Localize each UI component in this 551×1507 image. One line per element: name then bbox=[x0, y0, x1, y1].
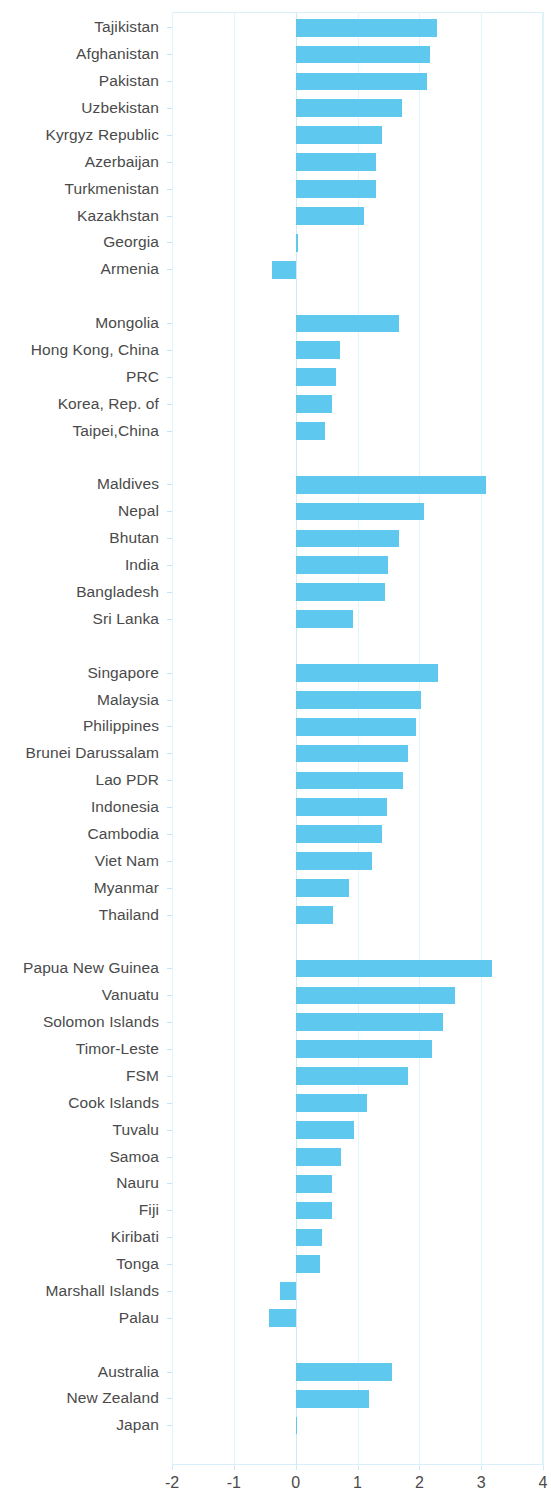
bar-row[interactable]: Thailand bbox=[172, 901, 543, 928]
bar[interactable] bbox=[296, 987, 455, 1005]
bar[interactable] bbox=[296, 126, 382, 144]
bar[interactable] bbox=[296, 879, 350, 897]
bar[interactable] bbox=[296, 234, 298, 252]
bar[interactable] bbox=[296, 1255, 320, 1273]
bar[interactable] bbox=[296, 1094, 368, 1112]
bar-row[interactable]: Palau bbox=[172, 1304, 543, 1331]
bar[interactable] bbox=[296, 207, 364, 225]
bar-row[interactable]: Cook Islands bbox=[172, 1089, 543, 1116]
bar[interactable] bbox=[296, 99, 402, 117]
bar[interactable] bbox=[296, 46, 430, 64]
bar[interactable] bbox=[296, 422, 325, 440]
bar-row[interactable]: Taipei,China bbox=[172, 417, 543, 444]
bar[interactable] bbox=[296, 1229, 322, 1247]
bar-row[interactable]: Cambodia bbox=[172, 820, 543, 847]
bar-row[interactable]: Kiribati bbox=[172, 1224, 543, 1251]
bar-row[interactable]: Indonesia bbox=[172, 794, 543, 821]
bar-row[interactable]: Georgia bbox=[172, 229, 543, 256]
bar-row[interactable]: Fiji bbox=[172, 1197, 543, 1224]
bar-row[interactable]: Turkmenistan bbox=[172, 175, 543, 202]
bar[interactable] bbox=[296, 180, 376, 198]
bar-row[interactable]: Solomon Islands bbox=[172, 1009, 543, 1036]
bar-row[interactable]: Sri Lanka bbox=[172, 605, 543, 632]
bar[interactable] bbox=[296, 1148, 342, 1166]
bar[interactable] bbox=[296, 1013, 443, 1031]
bar[interactable] bbox=[296, 1363, 392, 1381]
bar-row[interactable]: Singapore bbox=[172, 659, 543, 686]
bar[interactable] bbox=[296, 718, 416, 736]
bar[interactable] bbox=[296, 19, 437, 37]
bar[interactable] bbox=[296, 960, 493, 978]
bar-row[interactable]: Viet Nam bbox=[172, 847, 543, 874]
bar-row[interactable]: Azerbaijan bbox=[172, 148, 543, 175]
bar-row[interactable]: Myanmar bbox=[172, 874, 543, 901]
bar[interactable] bbox=[296, 503, 424, 521]
bar[interactable] bbox=[296, 825, 383, 843]
bar[interactable] bbox=[296, 610, 353, 628]
bar[interactable] bbox=[296, 745, 408, 763]
bar[interactable] bbox=[280, 1282, 296, 1300]
bar[interactable] bbox=[296, 1202, 332, 1220]
bar[interactable] bbox=[296, 341, 340, 359]
bar-row[interactable]: Papua New Guinea bbox=[172, 955, 543, 982]
bar-row[interactable]: Korea, Rep. of bbox=[172, 390, 543, 417]
bar-row[interactable]: Tajikistan bbox=[172, 14, 543, 41]
bar-row[interactable]: Tuvalu bbox=[172, 1116, 543, 1143]
bar-row[interactable]: Malaysia bbox=[172, 686, 543, 713]
bar-row[interactable]: PRC bbox=[172, 363, 543, 390]
bar[interactable] bbox=[296, 906, 334, 924]
bar[interactable] bbox=[296, 691, 422, 709]
y-axis-label: Cook Islands bbox=[68, 1094, 159, 1112]
bar-row[interactable]: Uzbekistan bbox=[172, 95, 543, 122]
bar[interactable] bbox=[296, 1121, 354, 1139]
bar[interactable] bbox=[296, 664, 438, 682]
bar-row[interactable]: FSM bbox=[172, 1062, 543, 1089]
bar-row[interactable]: Philippines bbox=[172, 713, 543, 740]
bar-row[interactable]: Marshall Islands bbox=[172, 1277, 543, 1304]
bar[interactable] bbox=[296, 530, 399, 548]
bar-row[interactable]: Nepal bbox=[172, 498, 543, 525]
bar[interactable] bbox=[296, 772, 403, 790]
bar[interactable] bbox=[296, 1067, 408, 1085]
y-axis-label: Solomon Islands bbox=[43, 1013, 159, 1031]
bar-row[interactable]: Maldives bbox=[172, 471, 543, 498]
bar[interactable] bbox=[296, 73, 427, 91]
bar[interactable] bbox=[296, 395, 332, 413]
bar[interactable] bbox=[296, 153, 376, 171]
bar-row[interactable]: New Zealand bbox=[172, 1385, 543, 1412]
bar[interactable] bbox=[272, 261, 296, 279]
bar-row[interactable]: India bbox=[172, 552, 543, 579]
bar-row[interactable]: Vanuatu bbox=[172, 982, 543, 1009]
bar-row[interactable]: Nauru bbox=[172, 1170, 543, 1197]
bar-row[interactable]: Samoa bbox=[172, 1143, 543, 1170]
bar[interactable] bbox=[296, 556, 389, 574]
bar-row[interactable]: Australia bbox=[172, 1358, 543, 1385]
bar[interactable] bbox=[296, 315, 399, 333]
bar-row[interactable]: Japan bbox=[172, 1412, 543, 1439]
bar-row[interactable]: Afghanistan bbox=[172, 41, 543, 68]
y-tick-mark bbox=[167, 592, 172, 593]
bar[interactable] bbox=[269, 1309, 296, 1327]
bar-row[interactable]: Timor-Leste bbox=[172, 1036, 543, 1063]
bar-row[interactable]: Armenia bbox=[172, 256, 543, 283]
bar-row[interactable]: Bangladesh bbox=[172, 579, 543, 606]
bar-row[interactable]: Lao PDR bbox=[172, 767, 543, 794]
bar[interactable] bbox=[296, 798, 388, 816]
bar[interactable] bbox=[296, 476, 486, 494]
bar-row[interactable]: Kazakhstan bbox=[172, 202, 543, 229]
bar[interactable] bbox=[296, 1175, 332, 1193]
bar[interactable] bbox=[296, 852, 373, 870]
bar[interactable] bbox=[296, 1040, 433, 1058]
bar-row[interactable]: Tonga bbox=[172, 1251, 543, 1278]
bar-row[interactable]: Hong Kong, China bbox=[172, 337, 543, 364]
bar[interactable] bbox=[296, 368, 336, 386]
bar-row[interactable]: Brunei Darussalam bbox=[172, 740, 543, 767]
bar[interactable] bbox=[296, 1390, 370, 1408]
bar[interactable] bbox=[296, 583, 385, 601]
bar-row[interactable]: Pakistan bbox=[172, 68, 543, 95]
bar-row[interactable]: Mongolia bbox=[172, 310, 543, 337]
bar-row[interactable]: Kyrgyz Republic bbox=[172, 122, 543, 149]
bar-row[interactable]: Bhutan bbox=[172, 525, 543, 552]
bar[interactable] bbox=[296, 1417, 297, 1435]
x-tick-mark bbox=[172, 1465, 173, 1470]
